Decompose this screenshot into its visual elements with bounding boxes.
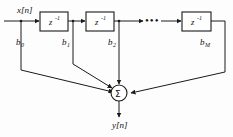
coefficient-label-b1: b 1 [62, 37, 70, 48]
delay-block-2-rect [86, 12, 114, 31]
summing-junction: Σ [111, 85, 127, 101]
coef-b2-subscript: 2 [113, 42, 116, 48]
delay-block-1: z -1 [40, 12, 68, 31]
delay-block-3-label: z [190, 17, 195, 27]
tap-node-b0 [20, 20, 23, 23]
output-signal-label: y[n] [111, 120, 128, 130]
coef-bM-subscript: M [204, 42, 211, 48]
input-signal-label: x[n] [16, 5, 33, 15]
delay-block-1-exponent: -1 [55, 15, 60, 21]
coef-b1-subscript: 1 [67, 42, 70, 48]
coefficient-label-b2: b 2 [108, 37, 116, 48]
summing-junction-symbol: Σ [115, 89, 121, 99]
tap-wire-b0 [21, 21, 113, 92]
coefficient-label-bM: b M [200, 37, 211, 48]
fir-filter-canvas: z -1 z -1 z -1 ••• x[n] [0, 0, 233, 137]
delay-block-2: z -1 [86, 12, 114, 31]
delay-block-1-rect [40, 12, 68, 31]
delay-block-3: z -1 [182, 12, 211, 31]
tap-node-b2 [118, 20, 121, 23]
fir-filter-diagram: z -1 z -1 z -1 ••• x[n] [0, 0, 233, 137]
coefficient-label-b0: b 0 [16, 37, 24, 48]
delay-block-2-label: z [94, 17, 99, 27]
coef-b0-subscript: 0 [21, 42, 24, 48]
delay-block-3-exponent: -1 [197, 15, 202, 21]
delay-block-2-exponent: -1 [101, 15, 106, 21]
delay-block-1-label: z [48, 17, 53, 27]
tap-node-b1 [72, 20, 75, 23]
ellipsis-label: ••• [145, 14, 160, 26]
tap-wire-bM [131, 21, 225, 93]
tap-branch-bM [131, 21, 225, 93]
tap-branch-b2 [118, 20, 121, 84]
